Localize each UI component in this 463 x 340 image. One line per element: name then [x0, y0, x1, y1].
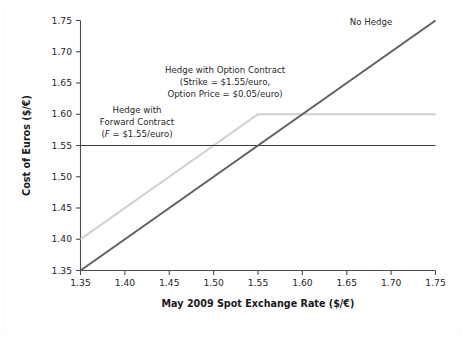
forward-value: = $1.55/euro)	[110, 129, 173, 139]
y-axis-title: Cost of Euros ($/€)	[21, 95, 32, 196]
y-tick-label: 1.70	[52, 46, 73, 57]
hedging-cost-line-chart: 1.35 1.40 1.45 1.50 1.55 1.60 1.65 1.70 …	[0, 0, 463, 340]
annotation-forward-line2: Forward Contract	[100, 117, 175, 127]
x-tick-label: 1.70	[381, 277, 402, 288]
annotation-option-line1: Hedge with Option Contract	[165, 65, 286, 75]
annotation-option-contract: Hedge with Option Contract (Strike = $1.…	[165, 65, 286, 99]
annotation-option-line2: (Strike = $1.55/euro,	[180, 77, 270, 87]
annotation-forward-line3: (F = $1.55/euro)	[101, 129, 172, 139]
x-axis-ticks	[81, 271, 436, 276]
y-tick-label: 1.40	[52, 233, 73, 244]
x-axis-title: May 2009 Spot Exchange Rate ($/€)	[162, 298, 355, 309]
annotation-forward-contract: Hedge with Forward Contract (F = $1.55/e…	[100, 105, 175, 139]
x-axis-tick-labels: 1.35 1.40 1.45 1.50 1.55 1.60 1.65 1.70 …	[70, 277, 446, 288]
y-tick-label: 1.65	[52, 77, 73, 88]
x-tick-label: 1.65	[337, 277, 358, 288]
annotation-option-line3: Option Price = $0.05/euro)	[167, 89, 282, 99]
annotation-no-hedge: No Hedge	[350, 17, 392, 27]
y-tick-label: 1.75	[52, 15, 73, 26]
y-tick-label: 1.60	[52, 108, 73, 119]
x-tick-label: 1.55	[248, 277, 269, 288]
x-tick-label: 1.40	[115, 277, 136, 288]
y-tick-label: 1.35	[52, 265, 73, 276]
x-tick-label: 1.60	[292, 277, 313, 288]
y-tick-label: 1.55	[52, 140, 73, 151]
y-tick-label: 1.45	[52, 202, 73, 213]
x-tick-label: 1.35	[70, 277, 91, 288]
y-axis-tick-labels: 1.35 1.40 1.45 1.50 1.55 1.60 1.65 1.70 …	[52, 15, 73, 276]
annotation-forward-line1: Hedge with	[113, 105, 162, 115]
y-tick-label: 1.50	[52, 171, 73, 182]
x-tick-label: 1.45	[159, 277, 180, 288]
y-axis-ticks	[76, 21, 81, 271]
chart-plot-area: 1.35 1.40 1.45 1.50 1.55 1.60 1.65 1.70 …	[0, 0, 463, 340]
x-tick-label: 1.50	[203, 277, 224, 288]
x-tick-label: 1.75	[425, 277, 446, 288]
figure-container: 1.35 1.40 1.45 1.50 1.55 1.60 1.65 1.70 …	[0, 0, 463, 340]
